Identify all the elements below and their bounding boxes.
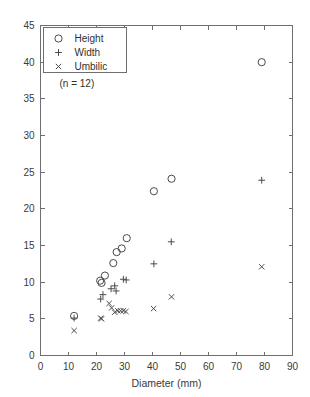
x-axis-title: Diameter (mm): [132, 377, 202, 389]
y-tick-label: 0: [29, 350, 35, 361]
x-tick-label: 90: [287, 361, 299, 372]
x-tick-label: 20: [91, 361, 103, 372]
y-tick-label: 35: [23, 93, 35, 104]
y-tick-label: 5: [29, 313, 35, 324]
sample-size-annotation: (n = 12): [60, 78, 95, 89]
plot-canvas: 0102030405060708090051015202530354045 He…: [0, 0, 310, 397]
series-width: [71, 177, 265, 322]
legend: HeightWidthUmbilic: [44, 28, 127, 73]
legend-label-width: Width: [75, 47, 101, 58]
series-height: [71, 59, 266, 320]
data-point: [118, 308, 123, 313]
data-point: [151, 260, 158, 267]
y-tick-label: 10: [23, 277, 35, 288]
data-point: [258, 59, 265, 66]
data-point: [71, 328, 76, 333]
data-point: [101, 272, 108, 279]
legend-label-umbilic: Umbilic: [75, 61, 108, 72]
data-point: [111, 282, 118, 289]
data-point: [151, 306, 156, 311]
legend-label-height: Height: [75, 33, 104, 44]
data-point: [71, 315, 78, 322]
plot-frame: [41, 26, 293, 356]
y-tick-label: 30: [23, 130, 35, 141]
y-tick-label: 40: [23, 57, 35, 68]
x-tick-label: 80: [259, 361, 271, 372]
data-point: [169, 294, 174, 299]
data-point: [168, 238, 175, 245]
x-tick-label: 40: [147, 361, 159, 372]
x-tick-label: 0: [38, 361, 44, 372]
data-point: [150, 188, 157, 195]
data-point: [110, 260, 117, 267]
data-point: [258, 177, 265, 184]
data-points-group: [71, 59, 266, 334]
y-tick-label: 20: [23, 203, 35, 214]
data-point: [118, 245, 125, 252]
x-tick-label: 70: [231, 361, 243, 372]
x-tick-label: 60: [203, 361, 215, 372]
scatter-plot-figure: 0102030405060708090051015202530354045 He…: [0, 0, 310, 397]
data-point: [168, 175, 175, 182]
axis-labels-group: (n = 12)Diameter (mm): [60, 78, 202, 389]
x-tick-label: 50: [175, 361, 187, 372]
data-point: [98, 279, 105, 286]
data-point: [123, 235, 130, 242]
y-tick-label: 15: [23, 240, 35, 251]
y-tick-label: 45: [23, 20, 35, 31]
x-tick-label: 10: [63, 361, 75, 372]
y-tick-label: 25: [23, 167, 35, 178]
data-point: [259, 264, 264, 269]
x-tick-label: 30: [119, 361, 131, 372]
data-point: [113, 249, 120, 256]
